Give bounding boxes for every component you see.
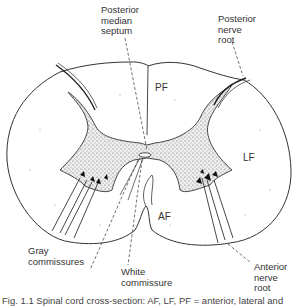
region-pf: PF: [155, 82, 168, 93]
label-posterior-median-septum: Posterior median septum: [101, 5, 139, 37]
label-white-commissure: White commissure: [121, 267, 172, 288]
label-gray-commissures: Gray commissures: [28, 246, 84, 267]
label-posterior-nerve-root: Posterior nerve root: [218, 14, 256, 46]
region-lf: LF: [243, 152, 255, 163]
region-af: AF: [158, 211, 171, 222]
label-anterior-nerve-root: Anterior nerve root: [254, 262, 287, 294]
figure-caption: Fig. 1.1 Spinal cord cross-section: AF, …: [2, 295, 283, 306]
